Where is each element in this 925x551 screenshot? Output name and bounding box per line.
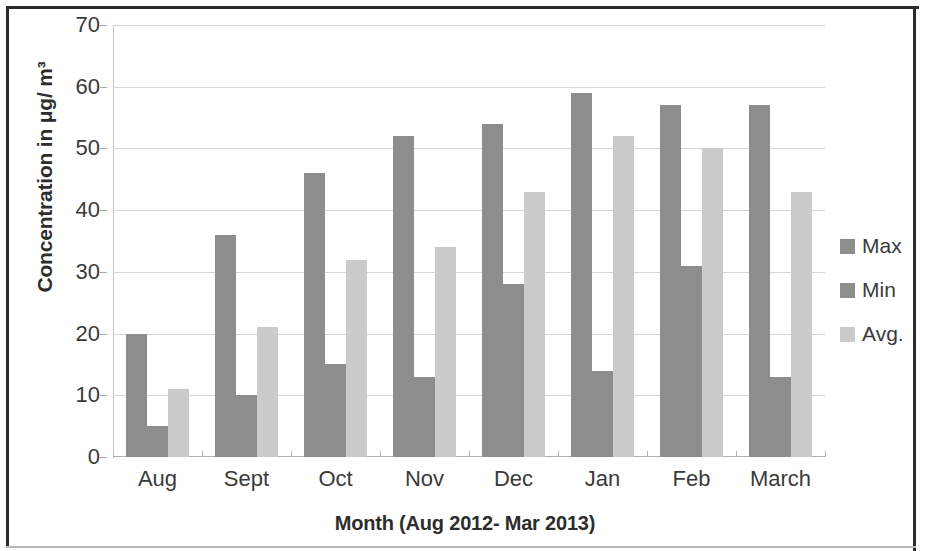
bar-max-dec[interactable] xyxy=(482,124,503,457)
y-tick-mark xyxy=(100,148,107,149)
x-tick-mark xyxy=(558,451,559,457)
bar-min-dec[interactable] xyxy=(503,284,524,457)
x-tick-mark xyxy=(469,451,470,457)
x-tick-mark xyxy=(202,451,203,457)
bar-group xyxy=(660,25,723,457)
bar-avg-march[interactable] xyxy=(791,192,812,457)
y-tick-mark xyxy=(100,457,107,458)
plot-area xyxy=(113,25,825,457)
x-tick-mark xyxy=(825,451,826,457)
x-tick-label-oct: Oct xyxy=(291,468,380,490)
bar-max-sept[interactable] xyxy=(215,235,236,457)
y-tick-label: 0 xyxy=(40,446,100,468)
bar-min-jan[interactable] xyxy=(592,371,613,457)
bar-min-aug[interactable] xyxy=(147,426,168,457)
x-tick-label-feb: Feb xyxy=(647,468,736,490)
y-tick-mark xyxy=(100,25,107,26)
y-tick-mark xyxy=(100,395,107,396)
bar-max-jan[interactable] xyxy=(571,93,592,457)
x-tick-label-nov: Nov xyxy=(380,468,469,490)
bar-max-oct[interactable] xyxy=(304,173,325,457)
y-tick-mark xyxy=(100,210,107,211)
y-tick-label: 70 xyxy=(40,14,100,36)
y-tick-mark xyxy=(100,87,107,88)
bar-max-nov[interactable] xyxy=(393,136,414,457)
legend-label: Min xyxy=(862,278,896,302)
x-tick-mark xyxy=(380,451,381,457)
bar-min-oct[interactable] xyxy=(325,364,346,457)
legend-swatch-icon xyxy=(840,239,855,254)
bar-avg-dec[interactable] xyxy=(524,192,545,457)
bar-avg-sept[interactable] xyxy=(257,327,278,457)
y-tick-mark xyxy=(100,334,107,335)
x-axis-title: Month (Aug 2012- Mar 2013) xyxy=(100,512,830,535)
x-tick-mark xyxy=(113,451,114,457)
bar-min-feb[interactable] xyxy=(681,266,702,457)
bar-group xyxy=(571,25,634,457)
legend-item-min[interactable]: Min xyxy=(840,268,916,312)
x-tick-label-jan: Jan xyxy=(558,468,647,490)
bar-group xyxy=(482,25,545,457)
legend-label: Max xyxy=(862,234,902,258)
y-tick-label: 30 xyxy=(40,261,100,283)
bar-min-sept[interactable] xyxy=(236,395,257,457)
legend-item-max[interactable]: Max xyxy=(840,224,916,268)
y-tick-label: 10 xyxy=(40,384,100,406)
bar-min-march[interactable] xyxy=(770,377,791,457)
x-tick-label-dec: Dec xyxy=(469,468,558,490)
bar-avg-nov[interactable] xyxy=(435,247,456,457)
bar-group xyxy=(749,25,812,457)
y-tick-label: 40 xyxy=(40,199,100,221)
bar-avg-oct[interactable] xyxy=(346,260,367,457)
bar-avg-aug[interactable] xyxy=(168,389,189,457)
page-border-left xyxy=(6,6,9,546)
x-axis-tick-labels: AugSeptOctNovDecJanFebMarch xyxy=(113,468,825,504)
x-tick-mark xyxy=(736,451,737,457)
bar-avg-jan[interactable] xyxy=(613,136,634,457)
bar-group xyxy=(304,25,367,457)
bar-max-march[interactable] xyxy=(749,105,770,457)
legend-swatch-icon xyxy=(840,283,855,298)
chart-legend: MaxMinAvg. xyxy=(840,224,916,356)
bar-group xyxy=(215,25,278,457)
bar-group xyxy=(126,25,189,457)
bar-group xyxy=(393,25,456,457)
x-tick-label-march: March xyxy=(736,468,825,490)
legend-item-avg[interactable]: Avg. xyxy=(840,312,916,356)
x-tick-label-aug: Aug xyxy=(113,468,202,490)
chart-page: Concentration in μg/ m³ 010203040506070 … xyxy=(0,0,925,551)
legend-label: Avg. xyxy=(862,322,904,346)
y-tick-label: 60 xyxy=(40,76,100,98)
x-tick-mark xyxy=(647,451,648,457)
y-axis-tick-labels: 010203040506070 xyxy=(38,25,100,457)
legend-swatch-icon xyxy=(840,327,855,342)
page-border-top xyxy=(6,6,919,9)
bar-avg-feb[interactable] xyxy=(702,148,723,457)
y-tick-label: 50 xyxy=(40,137,100,159)
bar-max-feb[interactable] xyxy=(660,105,681,457)
x-tick-label-sept: Sept xyxy=(202,468,291,490)
y-tick-label: 20 xyxy=(40,323,100,345)
y-tick-mark xyxy=(100,272,107,273)
bar-min-nov[interactable] xyxy=(414,377,435,457)
page-border-bottom xyxy=(6,546,916,548)
x-tick-mark xyxy=(291,451,292,457)
bar-max-aug[interactable] xyxy=(126,334,147,457)
